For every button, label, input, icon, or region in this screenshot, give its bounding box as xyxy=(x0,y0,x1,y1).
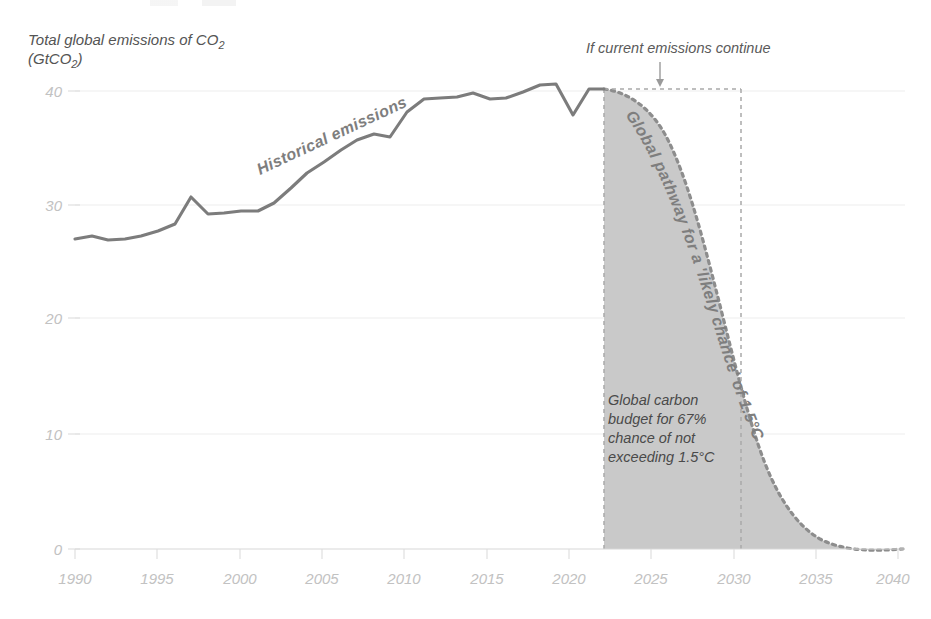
x-tick-2000: 2000 xyxy=(222,570,257,587)
x-tick-2010: 2010 xyxy=(386,570,421,587)
y-tick-20: 20 xyxy=(44,310,62,327)
x-tick-2005: 2005 xyxy=(304,570,339,587)
y-axis-title: Total global emissions of CO2 (GtCO2) xyxy=(28,31,225,70)
y-axis-title-unit: (GtCO xyxy=(28,50,72,67)
x-tick-2015: 2015 xyxy=(469,570,504,587)
y-tick-10: 10 xyxy=(45,426,62,443)
y-axis-title-line2: (GtCO2) xyxy=(28,50,82,70)
y-tick-0: 0 xyxy=(54,541,63,558)
y-axis-title-paren: ) xyxy=(75,50,82,67)
down-arrow-icon xyxy=(656,62,664,87)
x-tick-2035: 2035 xyxy=(798,570,833,587)
emissions-chart-svg: 40 30 20 10 0 1990 1995 2000 2005 2010 2… xyxy=(0,0,931,619)
carbon-budget-line-2: budget for 67% xyxy=(608,411,706,427)
x-tickmarks xyxy=(75,549,898,559)
carbon-budget-line-4: exceeding 1.5°C xyxy=(608,449,715,465)
y-tickmarks xyxy=(68,91,80,549)
y-axis-title-sub2: 2 xyxy=(70,58,77,70)
gridlines xyxy=(75,91,905,434)
y-tick-labels: 40 30 20 10 0 xyxy=(44,83,62,558)
x-tick-1990: 1990 xyxy=(58,570,92,587)
carbon-budget-line-3: chance of not xyxy=(608,430,696,446)
y-tick-40: 40 xyxy=(45,83,62,100)
historical-emissions-line xyxy=(75,84,604,240)
x-tick-2025: 2025 xyxy=(633,570,668,587)
y-tick-30: 30 xyxy=(45,197,62,214)
x-tick-2040: 2040 xyxy=(875,570,910,587)
y-axis-title-sub1: 2 xyxy=(217,39,224,51)
if-current-emissions-label: If current emissions continue xyxy=(586,40,771,56)
x-tick-2020: 2020 xyxy=(551,570,586,587)
x-tick-2030: 2030 xyxy=(716,570,751,587)
x-tick-labels: 1990 1995 2000 2005 2010 2015 2020 2025 … xyxy=(58,570,910,587)
chart-root: 40 30 20 10 0 1990 1995 2000 2005 2010 2… xyxy=(0,0,931,619)
y-axis-title-main: Total global emissions of CO xyxy=(28,31,219,48)
y-axis-title-line1: Total global emissions of CO2 xyxy=(28,31,225,51)
x-tick-1995: 1995 xyxy=(140,570,174,587)
carbon-budget-line-1: Global carbon xyxy=(608,392,698,408)
